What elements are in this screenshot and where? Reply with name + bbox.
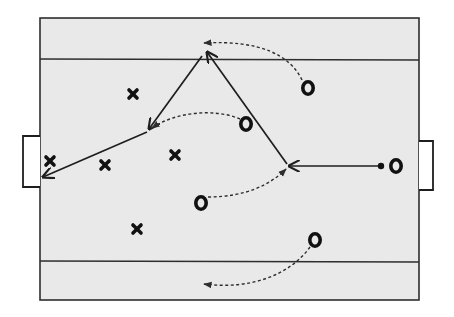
right-goal — [419, 141, 433, 190]
ball-icon — [378, 163, 384, 169]
top-channel-line — [40, 59, 419, 60]
left-goal — [23, 136, 40, 187]
drill-diagram — [0, 0, 454, 317]
bottom-channel-line — [40, 261, 419, 262]
pitch-canvas — [0, 0, 454, 317]
